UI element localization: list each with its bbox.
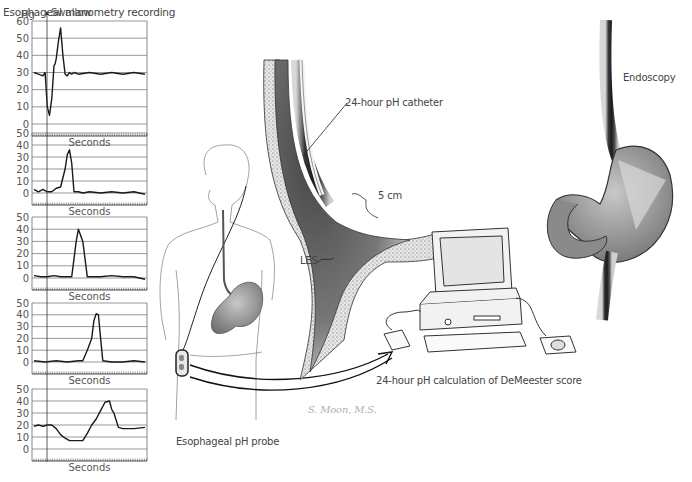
y-tick-label: 50 [16,33,29,44]
arrow-probe-to-computer [190,352,392,390]
endoscopy-stomach [547,20,672,320]
y-tick-label: 10 [16,432,29,443]
x-axis-label: Seconds [68,375,110,386]
x-axis-label: Seconds [68,137,110,148]
manometry-panel-1: 0102030405060Seconds [16,16,147,149]
artist-signature: S. Moon, M.S. [308,404,376,415]
pressure-trace [34,28,145,116]
patient-figure [160,145,274,420]
y-tick-label: 20 [16,84,29,95]
y-tick-label: 30 [16,408,29,419]
y-tick-label: 10 [16,345,29,356]
y-tick-label: 50 [16,384,29,395]
y-tick-label: 20 [16,420,29,431]
y-tick-label: 50 [16,298,29,309]
y-tick-label: 40 [16,309,29,320]
y-tick-label: 0 [23,357,29,368]
manometry-charts: 0102030405060Seconds01020304050Seconds01… [0,0,160,482]
manometry-panel-3: 01020304050Seconds [16,212,147,303]
endoscopy-label: Endoscopy [623,72,675,83]
manometry-panel-4: 01020304050Seconds [16,298,147,387]
y-tick-label: 10 [16,101,29,112]
y-tick-label: 40 [16,396,29,407]
pressure-trace [34,314,145,362]
y-tick-label: 0 [23,273,29,284]
y-tick-label: 20 [16,248,29,259]
esophagus-cross-section [264,60,452,380]
y-tick-label: 40 [16,50,29,61]
chart-title: Esophageal manometry recording [3,6,175,18]
x-axis-label: Seconds [68,206,110,217]
y-tick-label: 50 [16,212,29,223]
y-tick-label: 30 [16,321,29,332]
les-label: LES [300,255,318,266]
y-tick-label: 20 [16,333,29,344]
ph-probe-device [176,350,188,376]
pressure-trace [34,150,145,194]
x-axis-label: Seconds [68,462,110,473]
y-tick-label: 10 [16,176,29,187]
catheter-tube [302,60,322,195]
catheter-label: 24-hour pH catheter [345,97,443,108]
y-tick-label: 20 [16,164,29,175]
computer [384,228,576,354]
body-stomach [211,282,262,333]
five-cm-label: 5 cm [378,190,402,201]
catheter-leader [303,103,347,156]
five-cm-bracket [352,194,378,218]
y-tick-label: 30 [16,152,29,163]
y-tick-label: 30 [16,67,29,78]
y-tick-label: 0 [23,444,29,455]
manometry-panel-5: 01020304050Seconds [16,384,147,474]
y-tick-label: 40 [16,140,29,151]
y-tick-label: 40 [16,224,29,235]
y-tick-label: 0 [23,188,29,199]
pressure-trace [34,401,145,441]
computer-caption: 24-hour pH calculation of DeMeester scor… [376,375,582,386]
les-leader [318,258,334,262]
pressure-trace [34,229,145,279]
y-tick-label: 10 [16,260,29,271]
y-tick-label: 50 [16,128,29,139]
x-axis-label: Seconds [68,291,110,302]
probe-label: Esophageal pH probe [176,436,279,447]
y-tick-label: 30 [16,236,29,247]
nasal-catheter [182,186,246,352]
